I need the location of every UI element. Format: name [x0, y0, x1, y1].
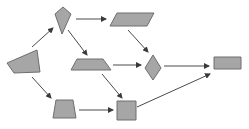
- node-irregular-quadrilateral-n1: [7, 50, 40, 73]
- edge-arrow-n3-to-n5: [128, 30, 148, 52]
- nodes-layer: [7, 7, 241, 120]
- node-rectangle-n6: [214, 57, 241, 69]
- edge-arrow-n1-to-n2: [32, 28, 53, 47]
- edge-arrow-n8-to-n6: [137, 74, 210, 107]
- node-kite-n2: [55, 7, 71, 34]
- node-diamond-n5: [145, 55, 161, 80]
- edge-arrow-n1-to-n7: [32, 77, 51, 98]
- node-parallelogram-n3: [110, 13, 154, 26]
- edge-arrow-n4-to-n8: [102, 74, 122, 98]
- edge-arrow-n2-to-n4: [68, 30, 87, 55]
- flow-diagram: [0, 0, 249, 129]
- node-trapezoid-n4: [71, 59, 111, 70]
- edges-layer: [32, 19, 210, 110]
- node-square-n8: [117, 101, 136, 120]
- node-trapezoid-n7: [53, 100, 76, 118]
